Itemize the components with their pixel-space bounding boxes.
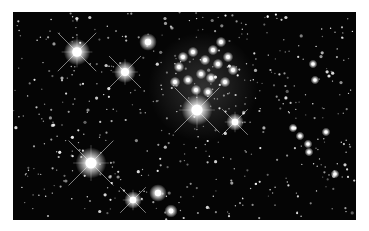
star-cluster-photo <box>13 12 356 220</box>
starfield-canvas <box>13 12 356 220</box>
